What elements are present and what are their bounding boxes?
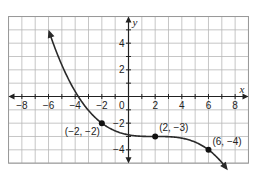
x-tick-label: −6 bbox=[43, 100, 55, 111]
y-tick-label: 4 bbox=[119, 38, 125, 49]
point-marker bbox=[152, 133, 158, 139]
point-marker bbox=[205, 147, 211, 153]
y-axis-top-arrow-icon bbox=[126, 17, 132, 23]
x-tick-label: −4 bbox=[69, 100, 81, 111]
x-tick-label: 2 bbox=[152, 100, 158, 111]
x-tick-label: −8 bbox=[16, 100, 28, 111]
x-axis-left-arrow-icon bbox=[9, 94, 15, 100]
point-label: (−2, −2) bbox=[65, 126, 100, 137]
labeled-points: (−2, −2)(2, −3)(6, −4) bbox=[65, 120, 242, 153]
x-tick-label: 6 bbox=[206, 100, 212, 111]
y-axis-bottom-arrow-icon bbox=[126, 157, 132, 163]
y-tick-label: −2 bbox=[113, 118, 125, 129]
point-label: (2, −3) bbox=[159, 122, 188, 133]
y-tick-label: 2 bbox=[119, 64, 125, 75]
point-label: (6, −4) bbox=[212, 136, 241, 147]
x-tick-label: −2 bbox=[96, 100, 108, 111]
curve-start-arrow-icon bbox=[48, 30, 55, 39]
x-tick-label: 8 bbox=[232, 100, 238, 111]
x-axis-label: x bbox=[238, 83, 244, 95]
function-graph: xy −8−6−4−2246842−2−40 (−2, −2)(2, −3)(6… bbox=[0, 0, 253, 190]
origin-label: 0 bbox=[119, 100, 125, 111]
y-tick-label: −4 bbox=[113, 144, 125, 155]
x-tick-label: 4 bbox=[179, 100, 185, 111]
y-axis-label: y bbox=[132, 16, 138, 28]
